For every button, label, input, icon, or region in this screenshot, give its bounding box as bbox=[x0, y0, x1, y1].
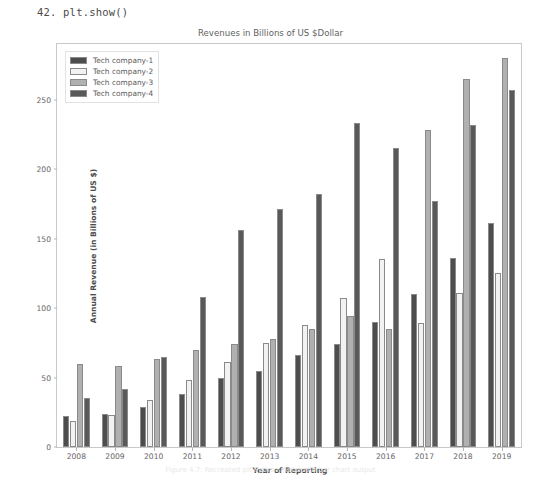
bar bbox=[102, 414, 108, 447]
x-axis-tick-label: 2011 bbox=[183, 452, 202, 461]
chart-title: Revenues in Billions of US $Dollar bbox=[0, 28, 541, 38]
y-axis-tick-mark bbox=[54, 238, 58, 239]
bar bbox=[340, 298, 346, 447]
x-axis-tick-mark bbox=[192, 447, 193, 451]
bar bbox=[495, 273, 501, 447]
x-axis-tick-label: 2009 bbox=[105, 452, 124, 461]
bar bbox=[393, 148, 399, 447]
bar bbox=[224, 362, 230, 447]
bar bbox=[154, 359, 160, 447]
y-axis-tick-mark bbox=[54, 169, 58, 170]
legend-label: Tech company-2 bbox=[93, 67, 153, 76]
x-axis-tick-mark bbox=[502, 447, 503, 451]
legend-item: Tech company-4 bbox=[70, 88, 153, 99]
y-axis-tick-label: 200 bbox=[27, 165, 51, 174]
bar bbox=[372, 322, 378, 447]
legend-swatch-icon bbox=[70, 57, 87, 64]
legend-swatch-icon bbox=[70, 79, 87, 86]
bar bbox=[418, 323, 424, 447]
chart-axes: Annual Revenue (in Billions of US $) Yea… bbox=[56, 43, 522, 448]
x-axis-tick-label: 2016 bbox=[376, 452, 395, 461]
y-axis-tick-label: 100 bbox=[27, 304, 51, 313]
bar bbox=[386, 329, 392, 447]
legend-label: Tech company-1 bbox=[93, 56, 153, 65]
bar bbox=[316, 194, 322, 447]
bar bbox=[379, 259, 385, 447]
bar bbox=[84, 398, 90, 447]
x-axis-tick-mark bbox=[115, 447, 116, 451]
bar bbox=[147, 400, 153, 447]
bar bbox=[302, 325, 308, 447]
legend-swatch-icon bbox=[70, 90, 87, 97]
bar bbox=[77, 364, 83, 447]
bar bbox=[432, 201, 438, 447]
bar bbox=[140, 407, 146, 447]
x-axis-tick-label: 2018 bbox=[453, 452, 472, 461]
legend-item: Tech company-1 bbox=[70, 55, 153, 66]
bar bbox=[411, 294, 417, 447]
bar bbox=[179, 394, 185, 447]
x-axis-tick-mark bbox=[463, 447, 464, 451]
bar bbox=[161, 357, 167, 447]
bar bbox=[108, 415, 114, 447]
legend-item: Tech company-3 bbox=[70, 77, 153, 88]
matplotlib-figure: Revenues in Billions of US $Dollar Annua… bbox=[0, 24, 541, 464]
x-axis-tick-mark bbox=[424, 447, 425, 451]
bar bbox=[309, 329, 315, 447]
bar bbox=[193, 350, 199, 447]
bar bbox=[456, 293, 462, 447]
x-axis-tick-mark bbox=[308, 447, 309, 451]
x-axis-tick-label: 2019 bbox=[492, 452, 511, 461]
y-axis-tick-label: 250 bbox=[27, 95, 51, 104]
y-axis-tick-label: 150 bbox=[27, 234, 51, 243]
legend-item: Tech company-2 bbox=[70, 66, 153, 77]
chart-legend: Tech company-1Tech company-2Tech company… bbox=[65, 51, 159, 103]
bar bbox=[238, 230, 244, 447]
x-axis-tick-mark bbox=[270, 447, 271, 451]
bar bbox=[200, 297, 206, 447]
x-axis-tick-label: 2012 bbox=[221, 452, 240, 461]
x-axis-tick-mark bbox=[231, 447, 232, 451]
y-axis-tick-mark bbox=[54, 99, 58, 100]
bar bbox=[218, 378, 224, 447]
bar bbox=[270, 339, 276, 447]
bar bbox=[354, 123, 360, 447]
x-axis-tick-label: 2017 bbox=[415, 452, 434, 461]
bar bbox=[425, 130, 431, 447]
bar bbox=[186, 380, 192, 447]
x-axis-tick-label: 2010 bbox=[144, 452, 163, 461]
bar bbox=[70, 421, 76, 447]
bar bbox=[502, 58, 508, 447]
x-axis-tick-label: 2013 bbox=[260, 452, 279, 461]
legend-swatch-icon bbox=[70, 68, 87, 75]
bar bbox=[450, 258, 456, 447]
x-axis-tick-mark bbox=[386, 447, 387, 451]
legend-label: Tech company-4 bbox=[93, 89, 153, 98]
bar bbox=[122, 389, 128, 447]
x-axis-tick-mark bbox=[347, 447, 348, 451]
bar bbox=[509, 90, 515, 447]
plot-area: 0501001502002502008200920102011201220132… bbox=[57, 44, 521, 447]
bar bbox=[63, 416, 69, 447]
bar bbox=[231, 344, 237, 447]
figure-caption: Figure 4.7: Recreated plt.Python matplot… bbox=[0, 466, 541, 474]
x-axis-tick-mark bbox=[154, 447, 155, 451]
y-axis-tick-label: 0 bbox=[27, 443, 51, 452]
bar bbox=[470, 125, 476, 447]
bar bbox=[347, 316, 353, 447]
y-axis-tick-label: 50 bbox=[27, 373, 51, 382]
code-line: 42. plt.show() bbox=[37, 6, 128, 18]
x-axis-tick-mark bbox=[76, 447, 77, 451]
bar bbox=[295, 355, 301, 447]
bar bbox=[463, 79, 469, 447]
x-axis-tick-label: 2015 bbox=[337, 452, 356, 461]
legend-label: Tech company-3 bbox=[93, 78, 153, 87]
bar bbox=[488, 223, 494, 447]
y-axis-tick-mark bbox=[54, 308, 58, 309]
bar bbox=[277, 209, 283, 447]
bar bbox=[263, 343, 269, 447]
bar bbox=[115, 366, 121, 447]
bar bbox=[256, 371, 262, 447]
bar bbox=[334, 344, 340, 447]
x-axis-tick-label: 2014 bbox=[299, 452, 318, 461]
